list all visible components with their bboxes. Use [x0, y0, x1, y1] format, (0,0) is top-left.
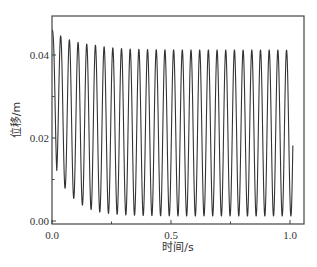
x-tick-label: 1.0: [283, 229, 297, 241]
y-axis-label: 位移/m: [9, 102, 23, 138]
displacement-time-chart: 0.00.51.00.000.020.04 时间/s 位移/m: [0, 0, 317, 267]
displacement-curve: [52, 30, 293, 216]
x-tick-label: 0.0: [45, 229, 59, 241]
y-tick-label: 0.00: [30, 215, 50, 227]
x-tick-label: 0.5: [164, 229, 178, 241]
y-tick-label: 0.02: [30, 132, 49, 144]
x-axis-label: 时间/s: [162, 241, 194, 254]
y-tick-label: 0.04: [30, 49, 50, 61]
